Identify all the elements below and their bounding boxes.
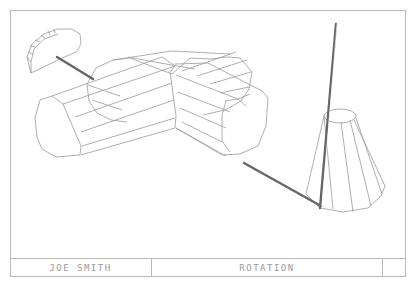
author-cell: JOE SMITH xyxy=(10,259,152,277)
shaft-right xyxy=(244,163,321,206)
cross-cylinder-front-right xyxy=(175,63,268,156)
sheet-cell xyxy=(383,259,406,277)
truncated-cone xyxy=(306,109,385,212)
shaft-left xyxy=(57,57,93,79)
vertical-rod xyxy=(320,24,336,208)
shafts xyxy=(57,24,337,208)
drawing-title-cell: ROTATION xyxy=(152,259,383,277)
cad-drawing xyxy=(0,0,416,288)
cross-cylinder-front-left xyxy=(35,57,176,157)
title-block: JOE SMITH ROTATION xyxy=(10,258,406,277)
